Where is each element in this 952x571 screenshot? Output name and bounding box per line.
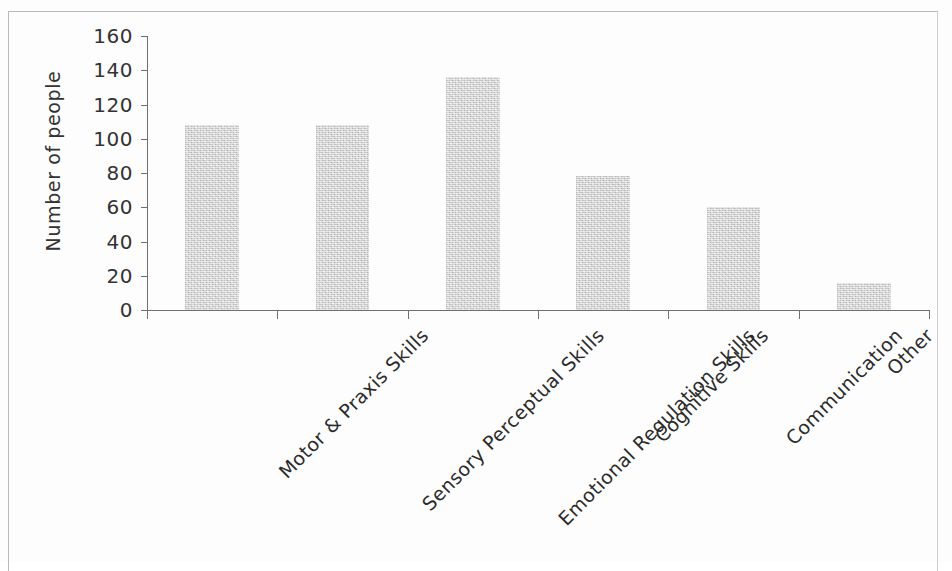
- x-tick-mark: [668, 310, 669, 319]
- bar: [837, 283, 890, 310]
- bar: [316, 125, 369, 310]
- y-tick-label: 40: [71, 230, 133, 254]
- x-tick-mark: [799, 310, 800, 319]
- x-axis-label: Cognitive Skills: [650, 324, 772, 446]
- x-tick-mark: [408, 310, 409, 319]
- bar: [446, 77, 499, 310]
- x-tick-mark: [147, 310, 148, 319]
- y-tick-label: 140: [71, 58, 133, 82]
- x-axis-label: Motor & Praxis Skills: [274, 324, 432, 482]
- y-tick-label: 120: [71, 93, 133, 117]
- y-axis-line: [147, 36, 148, 311]
- x-tick-mark: [929, 310, 930, 319]
- y-tick-label: 160: [71, 24, 133, 48]
- x-tick-mark: [277, 310, 278, 319]
- y-tick-label: 100: [71, 127, 133, 151]
- y-tick-label: 0: [71, 298, 133, 322]
- y-tick-label: 20: [71, 264, 133, 288]
- bar: [707, 207, 760, 310]
- y-axis-title: Number of people: [42, 61, 64, 261]
- y-tick-label: 80: [71, 161, 133, 185]
- bar: [576, 176, 629, 310]
- x-tick-mark: [538, 310, 539, 319]
- bar: [185, 125, 238, 310]
- y-tick-label: 60: [71, 195, 133, 219]
- x-axis-label: Communication: [781, 324, 906, 449]
